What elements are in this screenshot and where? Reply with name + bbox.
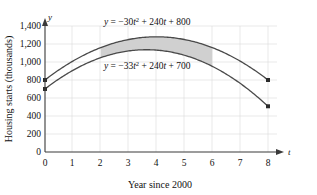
x-tick-label: 2 bbox=[98, 158, 103, 168]
upper-eq-b: + 240 bbox=[139, 17, 164, 27]
x-tick-label: 1 bbox=[70, 158, 75, 168]
y-tick-label: 1,400 bbox=[20, 21, 42, 31]
y-tick-label: 400 bbox=[27, 111, 42, 121]
lower-eq-a: −33 bbox=[118, 61, 133, 71]
lower-eq-equals: = bbox=[108, 61, 118, 71]
y-tick-label: 600 bbox=[27, 93, 42, 103]
x-tick-label: 4 bbox=[154, 158, 159, 168]
x-tick-label: 7 bbox=[238, 158, 243, 168]
y-axis-title: Housing starts (thousands) bbox=[3, 36, 15, 143]
upper-eq-equals: = bbox=[108, 17, 118, 27]
lower-eq-b: + 240 bbox=[139, 61, 164, 71]
y-tick-label: 1,200 bbox=[20, 39, 42, 49]
x-tick-label: 5 bbox=[182, 158, 187, 168]
y-tick-label: 0 bbox=[36, 147, 41, 157]
y-tick-label: 1,000 bbox=[20, 57, 42, 67]
x-tick-label: 0 bbox=[43, 158, 48, 168]
curve-endpoint-marker bbox=[266, 78, 270, 82]
upper-eq-a: −30 bbox=[118, 17, 133, 27]
upper-equation-annotation: y = −30t2 + 240t + 800 bbox=[103, 16, 191, 28]
x-tick-label: 3 bbox=[126, 158, 131, 168]
curve-endpoint-marker bbox=[266, 104, 270, 108]
y-tick-label: 800 bbox=[27, 75, 42, 85]
housing-starts-chart-svg: y t 1,400 1,200 1,000 800 600 400 200 0 … bbox=[0, 0, 317, 195]
chart-figure: y t 1,400 1,200 1,000 800 600 400 200 0 … bbox=[0, 0, 317, 195]
x-tick-label: 6 bbox=[210, 158, 215, 168]
lower-eq-c: + 700 bbox=[166, 61, 191, 71]
upper-eq-c: + 800 bbox=[166, 17, 191, 27]
x-tick-label: 8 bbox=[266, 158, 271, 168]
y-axis-variable-label: y bbox=[47, 12, 52, 22]
lower-equation-annotation: y = −33t2 + 240t + 700 bbox=[103, 60, 191, 72]
y-tick-label: 200 bbox=[27, 129, 42, 139]
x-axis-title: Year since 2000 bbox=[128, 179, 192, 190]
